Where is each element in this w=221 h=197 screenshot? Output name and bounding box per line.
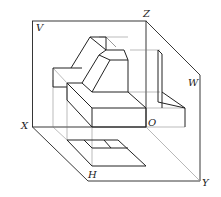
label-o: O <box>148 117 156 128</box>
label-y: Y <box>202 177 210 188</box>
label-w: W <box>188 77 199 88</box>
label-h: H <box>87 169 97 180</box>
h-plane <box>33 127 201 181</box>
label-v: V <box>36 22 45 33</box>
label-z: Z <box>142 8 151 19</box>
projection-diagram: Z V W X O H Y <box>0 0 221 197</box>
label-x: X <box>20 120 29 131</box>
w-plane <box>146 21 200 181</box>
oy-diagonal <box>146 127 200 181</box>
v-plane <box>33 21 147 127</box>
axis-labels: Z V W X O H Y <box>20 8 210 188</box>
